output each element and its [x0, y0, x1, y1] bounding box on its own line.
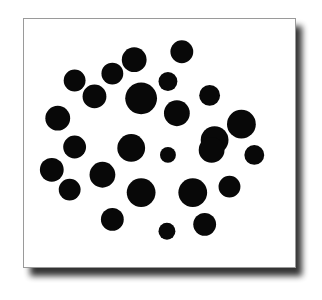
scatter-plot [24, 19, 295, 267]
scatter-point [101, 208, 124, 231]
scatter-point [101, 63, 123, 85]
screenshot-canvas [0, 0, 322, 300]
scatter-point [45, 106, 70, 131]
scatter-point [40, 158, 64, 182]
scatter-point [199, 85, 220, 106]
scatter-point [117, 134, 145, 162]
scatter-point [193, 213, 216, 236]
scatter-point [122, 47, 147, 72]
dot-layer [40, 40, 264, 239]
scatter-point [219, 176, 241, 198]
scatter-point [125, 82, 157, 114]
scatter-point [127, 178, 156, 207]
scatter-point [159, 223, 176, 240]
scatter-point [63, 136, 86, 159]
scatter-plot-card [23, 18, 296, 268]
scatter-point [244, 145, 264, 165]
scatter-point [160, 147, 176, 163]
scatter-point [64, 70, 86, 92]
scatter-point [178, 178, 207, 207]
scatter-point [199, 137, 225, 163]
scatter-point [59, 179, 81, 201]
scatter-point [83, 84, 107, 108]
scatter-point [227, 110, 256, 139]
scatter-point [170, 40, 193, 63]
scatter-point [90, 162, 116, 188]
scatter-point [159, 72, 178, 91]
scatter-point [164, 100, 190, 126]
